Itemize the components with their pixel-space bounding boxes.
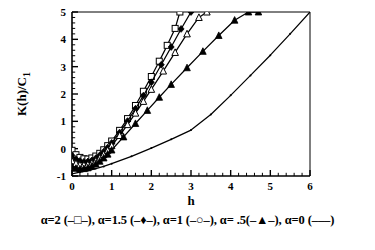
data-point-marker xyxy=(150,147,152,149)
data-point-marker xyxy=(172,25,178,31)
y-axis-title-text: K(h)/C xyxy=(14,77,29,116)
x-tick-label: 2 xyxy=(149,180,155,192)
x-axis-tick-labels: 0123456 xyxy=(69,180,313,192)
data-point-marker xyxy=(170,138,172,140)
x-tick-label: 1 xyxy=(109,180,115,192)
x-tick-label: 6 xyxy=(307,180,313,192)
x-tick-label: 4 xyxy=(228,180,234,192)
y-tick-label: 3 xyxy=(61,61,67,73)
data-point-marker xyxy=(269,54,271,56)
x-tick-label: 0 xyxy=(69,180,75,192)
x-tick-label: 5 xyxy=(268,180,274,192)
data-point-marker xyxy=(190,129,192,131)
data-point-marker xyxy=(87,170,89,172)
y-tick-label: 2 xyxy=(61,88,67,100)
data-point-marker xyxy=(103,165,105,167)
data-point-marker xyxy=(210,114,212,116)
legend-entry-alpha-2: α=2 (–□–) xyxy=(41,213,92,227)
legend-entry-alpha-1-5: α=1.5 (–♦–) xyxy=(98,213,157,227)
data-point-marker xyxy=(309,11,311,13)
legend-entry-alpha-0-5: α= .5(–▲–) xyxy=(220,213,279,227)
x-axis-title: h xyxy=(187,193,195,208)
data-point-marker xyxy=(95,168,97,170)
y-axis-title-subscript: 1 xyxy=(21,72,32,77)
y-axis-title: K(h)/C1 xyxy=(14,72,32,116)
y-axis-tick-labels: -1012345 xyxy=(57,6,67,182)
x-tick-label: 3 xyxy=(188,180,194,192)
y-tick-label: 1 xyxy=(61,115,67,127)
data-point-marker xyxy=(131,155,133,157)
data-point-marker xyxy=(177,9,183,15)
y-tick-label: -1 xyxy=(57,170,66,182)
data-point-marker xyxy=(79,171,81,173)
figure-caption: α=2 (–□–), α=1.5 (–♦–), α=1 (–○–), α= .5… xyxy=(0,213,375,228)
data-point-marker xyxy=(250,74,252,76)
y-tick-label: 5 xyxy=(61,6,67,18)
figure-container: 0123456 -1012345 h K(h)/C1 α=2 (–□–), α=… xyxy=(0,0,375,250)
y-tick-label: 4 xyxy=(61,33,67,45)
data-point-marker xyxy=(289,33,291,35)
data-point-marker xyxy=(111,163,113,165)
svg-text:K(h)/C1: K(h)/C1 xyxy=(14,72,32,116)
legend-entry-alpha-1: α=1 (–○–) xyxy=(163,213,214,227)
legend-entry-alpha-0: α=0 (–––) xyxy=(285,213,335,227)
data-point-marker xyxy=(230,94,232,96)
y-tick-label: 0 xyxy=(61,143,67,155)
